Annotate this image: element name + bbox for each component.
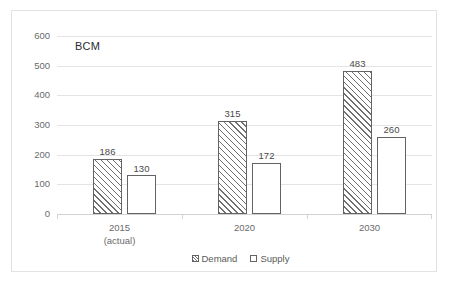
x-axis-baseline: 0 [57,214,432,215]
x-axis-category-label: 2030 [359,222,380,235]
bar-supply-2030[interactable]: 260 [377,137,406,214]
x-axis-tick [182,214,183,219]
bar-demand-2020[interactable]: 315 [218,121,247,214]
y-axis-tick-label: 400 [34,91,50,101]
y-axis-tick-label: 500 [34,61,50,71]
x-axis-category-year: 2015 [109,222,130,233]
x-axis-category-sublabel: (actual) [104,235,136,248]
legend-label-demand: Demand [202,254,238,264]
bar-supply-2020[interactable]: 172 [252,163,281,214]
legend-swatch-demand-icon [192,255,199,262]
y-axis-tick-label: 100 [34,180,50,190]
x-axis-category-label: 2020 [234,222,255,235]
bar-value-label: 260 [384,125,400,135]
bar-group: 483 260 2030 [307,36,432,214]
x-axis-category-label: 2015 (actual) [104,222,136,248]
bar-value-label: 483 [350,59,366,69]
legend-swatch-supply-icon [250,255,257,262]
bar-value-label: 172 [259,151,275,161]
bar-value-label: 130 [134,164,150,174]
x-axis-tick [431,214,432,219]
legend-item-supply[interactable]: Supply [250,254,289,264]
x-axis-tick [307,214,308,219]
bar-value-label: 315 [225,109,241,119]
bar-demand-2015[interactable]: 186 [93,159,122,214]
y-axis-tick-label: 300 [34,120,50,130]
bar-demand-2030[interactable]: 483 [343,71,372,214]
chart-container: 600 500 400 300 200 100 0 BCM [0,0,457,284]
x-axis-category-year: 2030 [359,222,380,233]
plot-area: 600 500 400 300 200 100 0 BCM [57,36,432,214]
x-axis-category-year: 2020 [234,222,255,233]
y-axis-tick-label: 600 [34,31,50,41]
legend-item-demand[interactable]: Demand [192,254,238,264]
y-axis-tick-label: 0 [45,209,50,219]
legend-label-supply: Supply [260,254,289,264]
chart-frame: 600 500 400 300 200 100 0 BCM [11,10,437,272]
x-axis-tick [57,214,58,219]
chart-legend: Demand Supply [12,254,457,264]
bar-group: 186 130 2015 (actual) [57,36,182,214]
y-axis-tick-label: 200 [34,150,50,160]
bar-supply-2015[interactable]: 130 [127,175,156,214]
bar-group: 315 172 2020 [182,36,307,214]
bar-value-label: 186 [100,147,116,157]
